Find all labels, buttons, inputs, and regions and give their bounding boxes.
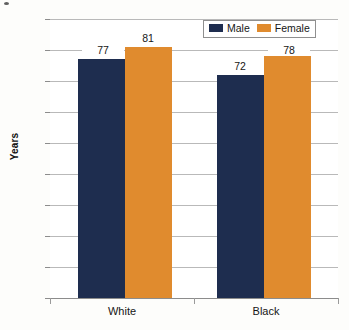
data-label-black-male: 72 [221,60,259,72]
x-axis-label-white: White [70,305,174,317]
y-axis-title: Years [9,117,20,177]
y-tick-30 [45,205,50,206]
bar-white-male[interactable] [78,59,125,298]
x-tick-right [338,298,339,304]
bar-black-male[interactable] [217,75,264,298]
data-label-white-male: 77 [82,44,124,56]
legend-label-female: Female [275,23,310,34]
legend-item-male[interactable]: Male [209,23,250,34]
y-tick-10 [45,267,50,268]
bar-white-female[interactable] [125,47,172,298]
bar-black-female[interactable] [264,56,311,298]
y-tick-90 [45,19,50,20]
bar-chart: Years 90 80 70 60 50 40 30 20 10 0 [0,0,349,330]
y-tick-60 [45,112,50,113]
x-tick-left [50,298,51,304]
y-tick-40 [45,174,50,175]
data-label-black-female: 78 [268,44,310,56]
plot-area: 77 81 72 78 [50,19,338,298]
legend-label-male: Male [227,23,250,34]
y-tick-20 [45,236,50,237]
legend-item-female[interactable]: Female [257,23,310,34]
scan-artifact [4,2,9,5]
legend-swatch-female-icon [257,24,271,32]
x-axis-label-black: Black [214,305,318,317]
legend: Male Female [203,20,316,38]
y-tick-80 [45,50,50,51]
x-tick-middle [194,298,195,304]
y-tick-70 [45,81,50,82]
data-label-white-female: 81 [129,32,167,44]
legend-swatch-male-icon [209,24,223,32]
y-tick-50 [45,143,50,144]
